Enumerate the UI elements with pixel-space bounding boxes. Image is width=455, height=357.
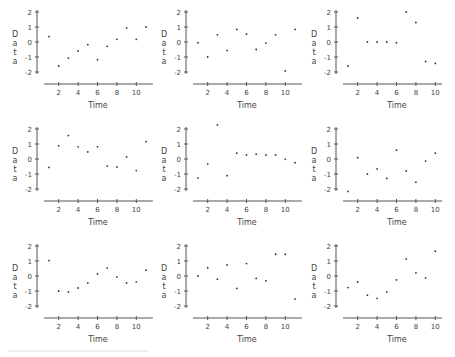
data-point <box>284 253 286 255</box>
x-tick-label: 6 <box>244 323 249 331</box>
scatter-panel-6: 210-1-2Data246810Time <box>311 126 442 228</box>
data-point <box>236 288 238 290</box>
data-point <box>294 29 296 31</box>
data-point <box>415 272 417 274</box>
y-tick-label: 2 <box>177 9 181 17</box>
x-tick-label: 10 <box>132 89 141 97</box>
data-point <box>68 57 70 59</box>
data-point <box>217 34 219 36</box>
x-tick-label: 2 <box>56 206 60 214</box>
y-axis-label-letter: D <box>12 264 18 273</box>
y-axis-label-letter: D <box>12 147 18 156</box>
data-point <box>77 146 79 148</box>
data-point <box>275 253 277 255</box>
y-axis-label-letter: t <box>162 282 165 291</box>
data-point <box>116 276 118 278</box>
x-axis-label: Time <box>386 218 407 227</box>
data-point <box>265 280 267 282</box>
y-axis-label-letter: t <box>312 282 315 291</box>
y-tick-label: -2 <box>25 186 32 194</box>
scatter-panel-3: 210-1-2Data246810Time <box>311 9 442 111</box>
y-axis-label-letter: a <box>312 273 317 282</box>
data-point <box>197 177 199 179</box>
y-axis-label-letter: a <box>312 57 317 66</box>
data-point <box>58 65 60 67</box>
y-axis-label-letter: D <box>161 264 167 273</box>
y-tick-label: -1 <box>324 288 331 296</box>
data-point <box>226 175 228 177</box>
data-point <box>347 191 349 193</box>
scatter-panel-8: 210-1-2Data246810Time <box>161 243 302 345</box>
data-point <box>376 297 378 299</box>
x-tick-label: 8 <box>115 323 119 331</box>
y-axis-label-letter: a <box>13 291 18 300</box>
x-axis-label: Time <box>236 335 257 344</box>
x-tick-label: 6 <box>244 89 249 97</box>
y-tick-label: 0 <box>327 273 331 281</box>
data-point <box>87 44 89 46</box>
y-tick-label: 2 <box>177 126 181 134</box>
data-point <box>255 278 257 280</box>
data-point <box>275 154 277 156</box>
data-point <box>415 181 417 183</box>
data-point <box>246 33 248 35</box>
y-tick-label: 1 <box>327 141 331 149</box>
y-tick-label: -2 <box>324 186 331 194</box>
data-point <box>284 70 286 72</box>
y-axis-label-letter: a <box>162 273 167 282</box>
x-tick-label: 2 <box>56 323 60 331</box>
x-tick-label: 10 <box>281 89 290 97</box>
data-point <box>68 291 70 293</box>
y-tick-label: 1 <box>177 141 181 149</box>
data-point <box>48 167 50 169</box>
y-tick-label: 1 <box>28 258 32 266</box>
x-tick-label: 2 <box>205 89 209 97</box>
data-point <box>87 282 89 284</box>
y-tick-label: 1 <box>327 24 331 32</box>
x-tick-label: 2 <box>355 206 359 214</box>
x-tick-label: 2 <box>355 89 359 97</box>
data-point <box>275 34 277 36</box>
y-tick-label: 0 <box>327 39 331 47</box>
y-tick-label: -2 <box>174 303 181 311</box>
y-axis-label-letter: t <box>13 165 16 174</box>
y-axis-label-letter: D <box>311 147 317 156</box>
y-axis-label-letter: D <box>161 147 167 156</box>
data-point <box>255 153 257 155</box>
data-point <box>226 50 228 52</box>
data-point <box>265 154 267 156</box>
data-point <box>367 294 369 296</box>
x-tick-label: 2 <box>355 323 359 331</box>
scatter-panel-2: 210-1-2Data246810Time <box>161 9 302 111</box>
data-point <box>367 41 369 43</box>
data-point <box>197 275 199 277</box>
x-tick-label: 10 <box>431 206 440 214</box>
data-point <box>126 156 128 158</box>
y-tick-label: 1 <box>327 258 331 266</box>
x-tick-label: 4 <box>76 323 81 331</box>
y-axis-label-letter: a <box>13 273 18 282</box>
scatter-panel-5: 210-1-2Data246810Time <box>161 124 302 227</box>
data-point <box>145 26 147 28</box>
y-tick-label: 0 <box>327 156 331 164</box>
data-point <box>434 152 436 154</box>
x-axis-label: Time <box>87 218 108 227</box>
data-point <box>434 63 436 65</box>
y-axis-label-letter: a <box>13 57 18 66</box>
y-axis-label-letter: D <box>311 30 317 39</box>
data-point <box>217 278 219 280</box>
x-tick-label: 8 <box>264 323 268 331</box>
x-tick-label: 2 <box>205 323 209 331</box>
data-point <box>97 273 99 275</box>
data-point <box>48 260 50 262</box>
x-axis-label: Time <box>386 335 407 344</box>
x-tick-label: 4 <box>225 323 230 331</box>
data-point <box>357 281 359 283</box>
data-point <box>236 29 238 31</box>
x-tick-label: 4 <box>375 323 380 331</box>
x-tick-label: 6 <box>394 89 399 97</box>
y-tick-label: -2 <box>25 303 32 311</box>
y-tick-label: -1 <box>174 288 181 296</box>
y-tick-label: -2 <box>324 69 331 77</box>
data-point <box>405 170 407 172</box>
